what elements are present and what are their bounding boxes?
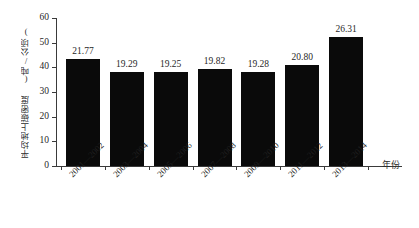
y-axis-tick: 50 bbox=[52, 43, 56, 44]
y-axis-tick: 10 bbox=[52, 141, 56, 142]
y-axis-tick-label: 20 bbox=[40, 111, 50, 122]
x-axis-tick bbox=[280, 166, 281, 170]
x-axis-tick bbox=[61, 166, 62, 170]
bar-value-label: 26.31 bbox=[316, 24, 376, 35]
y-axis-tick-label: 10 bbox=[40, 135, 50, 146]
y-axis-title: 平均地上碳密度 (吨/公顷) bbox=[22, 38, 36, 158]
x-axis-tick bbox=[324, 166, 325, 170]
y-axis-tick: 30 bbox=[52, 92, 56, 93]
y-axis-tick-label: 40 bbox=[40, 61, 50, 72]
y-axis-tick: 0 bbox=[52, 166, 56, 167]
y-axis-tick: 20 bbox=[52, 117, 56, 118]
y-axis-line bbox=[56, 18, 57, 167]
bar-value-label: 20.80 bbox=[272, 52, 332, 63]
x-axis-tick bbox=[193, 166, 194, 170]
bar-chart: 平均地上碳密度 (吨/公顷) 0102030405060 21.7719.291… bbox=[0, 0, 419, 228]
x-axis-tick bbox=[105, 166, 106, 170]
x-axis-tick bbox=[368, 166, 369, 170]
x-axis-tick bbox=[236, 166, 237, 170]
y-axis-tick: 60 bbox=[52, 18, 56, 19]
x-axis-title: 年份 bbox=[382, 160, 400, 171]
y-axis-tick-label: 0 bbox=[44, 160, 49, 171]
x-axis-tick bbox=[149, 166, 150, 170]
y-axis-tick-label: 30 bbox=[40, 86, 50, 97]
y-axis-tick-label: 60 bbox=[40, 12, 50, 23]
y-axis-tick: 40 bbox=[52, 67, 56, 68]
x-axis-line bbox=[56, 166, 402, 167]
y-axis-tick-label: 50 bbox=[40, 37, 50, 48]
bar-value-label: 21.77 bbox=[53, 46, 113, 57]
